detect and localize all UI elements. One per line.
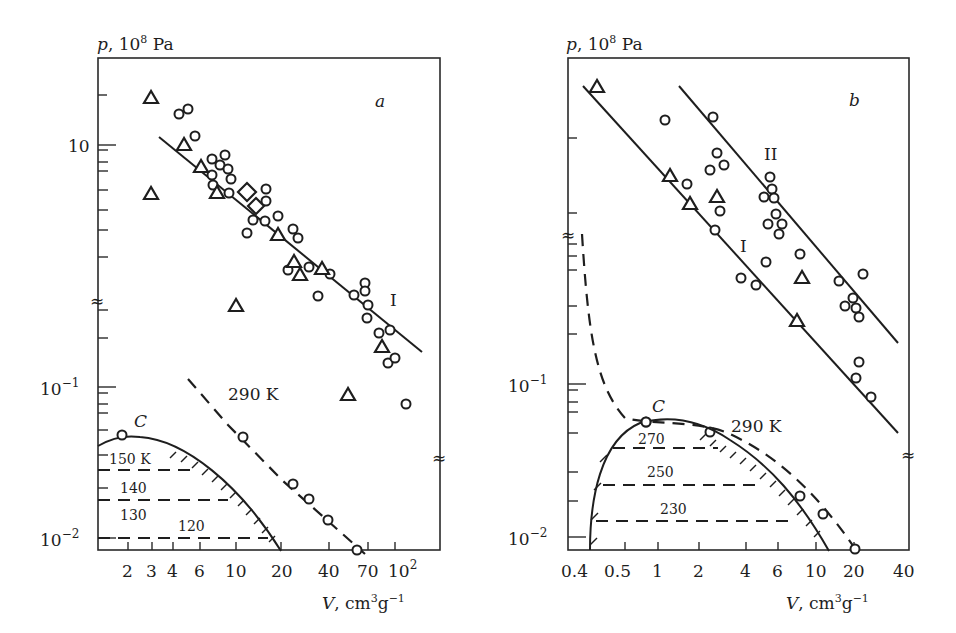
svg-text:10: 10 <box>225 561 247 581</box>
svg-text:102: 102 <box>388 558 417 581</box>
x-axis-label-b: V, cm3g−1 <box>786 592 869 613</box>
x-tick-labels-a: 2 3 4 6 10 20 40 70 102 <box>122 558 417 581</box>
svg-text:20: 20 <box>843 561 865 581</box>
y-axis-label-b: p, 108 Pa <box>566 33 643 54</box>
y-tick-label-a-1e-2: 10−2 <box>40 527 79 550</box>
isotherm-label-290K-a: 290 K <box>228 384 279 404</box>
svg-text:6: 6 <box>194 561 205 581</box>
isotherm-label-140-a: 140 <box>120 480 147 496</box>
svg-text:40: 40 <box>893 561 915 581</box>
isotherm-label-250-b: 250 <box>647 464 674 480</box>
y-tick-label-a-10: 10 <box>68 136 90 156</box>
isotherm-label-130-a: 130 <box>120 507 147 523</box>
y-tick-label-b-1e-2: 10−2 <box>508 526 547 549</box>
x-axis-label-a: V, cm3g−1 <box>322 592 405 613</box>
panel-a: p, 108 Pa a 10 10−1 10−2 ≈ <box>40 33 446 613</box>
critical-point-label-a: C <box>134 411 147 431</box>
axis-break-a-right: ≈ <box>432 448 446 468</box>
svg-text:1: 1 <box>652 561 663 581</box>
fit-line-II-b <box>679 86 898 343</box>
data-diamonds-a <box>238 183 264 214</box>
isotherm-290K-a <box>188 379 365 554</box>
isotherm-label-150K-a: 150 K <box>109 451 151 467</box>
line-label-I-b: I <box>740 236 747 256</box>
isotherm-label-120-a: 120 <box>178 518 205 534</box>
figure: p, 108 Pa a 10 10−1 10−2 ≈ <box>0 0 956 633</box>
line-label-I-a: I <box>390 290 397 310</box>
axis-break-b-left: ≈ <box>561 225 575 245</box>
isotherm-label-290K-b: 290 K <box>731 416 782 436</box>
plot-frame-a <box>98 58 440 550</box>
axis-break-b-right: ≈ <box>901 445 915 465</box>
x-tick-labels-b: 0.4 0.5 1 2 4 6 10 20 40 <box>561 561 915 581</box>
y-tick-label-a-1e-1: 10−1 <box>40 376 79 399</box>
svg-text:70: 70 <box>357 561 379 581</box>
svg-text:0.4: 0.4 <box>561 561 588 581</box>
y-ticks-a <box>98 95 116 538</box>
panel-letter-b: b <box>849 90 860 110</box>
y-axis-label-a: p, 108 Pa <box>97 33 174 54</box>
svg-text:10: 10 <box>805 561 827 581</box>
svg-text:6: 6 <box>772 561 783 581</box>
critical-point-b <box>642 418 651 427</box>
critical-point-label-b: C <box>652 396 665 416</box>
panel-letter-a: a <box>375 91 385 111</box>
svg-text:2: 2 <box>122 561 133 581</box>
isotherm-290K-points-a <box>239 433 362 555</box>
hatching-b <box>590 434 820 545</box>
isotherm-label-270-b: 270 <box>638 431 665 447</box>
svg-text:0.5: 0.5 <box>604 561 631 581</box>
line-label-II-b: II <box>764 144 777 164</box>
critical-point-a <box>118 431 127 440</box>
y-ticks-b <box>568 138 586 537</box>
svg-text:4: 4 <box>740 561 751 581</box>
axis-break-a-left: ≈ <box>90 291 104 311</box>
panel-b: p, 108 Pa b 10−1 10−2 ≈ ≈ <box>508 33 915 613</box>
data-triangles-a <box>144 91 389 400</box>
svg-text:40: 40 <box>318 561 340 581</box>
svg-text:20: 20 <box>271 561 293 581</box>
svg-text:3: 3 <box>146 561 157 581</box>
y-tick-label-b-1e-1: 10−1 <box>508 373 547 396</box>
fit-line-I-b <box>583 86 898 433</box>
isotherm-label-230-b: 230 <box>660 501 687 517</box>
svg-text:4: 4 <box>167 561 178 581</box>
x-ticks-b <box>625 542 854 550</box>
svg-text:2: 2 <box>693 561 704 581</box>
isotherm-290K-b <box>582 234 856 550</box>
